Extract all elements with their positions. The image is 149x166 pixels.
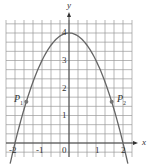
p1-label: P1 <box>14 94 23 106</box>
x-axis-label: x <box>142 138 146 147</box>
y-tick-1: 1 <box>62 111 67 120</box>
x-tick-0: 0 <box>62 146 67 155</box>
y-tick-2: 2 <box>62 84 67 93</box>
y-tick-3: 3 <box>62 56 67 65</box>
p2-label: P2 <box>117 94 126 106</box>
y-axis-label: y <box>67 1 71 10</box>
parabola-chart <box>0 0 149 166</box>
x-tick-2: 2 <box>121 146 126 155</box>
x-tick-neg2: -2 <box>9 146 17 155</box>
y-tick-4: 4 <box>62 28 67 37</box>
x-tick-neg1: -1 <box>36 146 44 155</box>
point-p1 <box>24 100 28 104</box>
x-tick-1: 1 <box>95 146 100 155</box>
point-p2 <box>110 100 114 104</box>
